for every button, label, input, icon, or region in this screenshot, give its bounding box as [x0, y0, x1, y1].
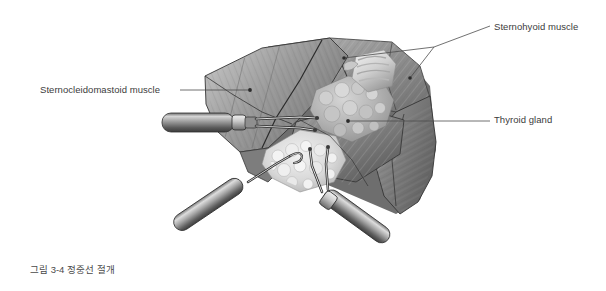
- surgical-illustration: [0, 0, 606, 291]
- label-sternocleidomastoid-muscle: Sternocleidomastoid muscle: [40, 84, 160, 95]
- leader-dot-scm: [248, 88, 252, 92]
- figure-container: Sternohyoid muscle Sternocleidomastoid m…: [0, 0, 606, 291]
- label-sternohyoid-muscle: Sternohyoid muscle: [494, 21, 578, 32]
- leader-dot-thyroid: [346, 119, 350, 123]
- leader-dot-sternohyoid-b: [408, 76, 412, 80]
- label-thyroid-gland: Thyroid gland: [494, 114, 552, 125]
- figure-caption: 그림 3-4 정중선 절개: [30, 262, 115, 276]
- leader-dot-sternohyoid-a: [342, 56, 346, 60]
